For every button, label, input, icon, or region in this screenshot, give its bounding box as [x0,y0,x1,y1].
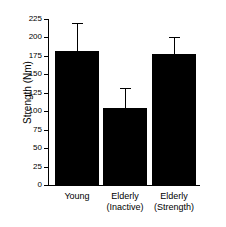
x-axis-line [48,185,200,186]
y-tick-label: 175 [29,52,42,60]
y-tick-label: 125 [29,89,42,97]
y-tick-mark [44,185,48,186]
y-tick-mark [44,37,48,38]
y-axis-line [48,19,49,185]
y-tick-mark [44,148,48,149]
y-tick-mark [44,19,48,20]
y-tick-label: 150 [29,70,42,78]
y-tick-mark [44,93,48,94]
y-tick-mark [44,74,48,75]
bar-2 [103,108,147,185]
x-tick-label-3: Elderly (Strength) [144,191,204,213]
y-tick-label: 0 [38,181,42,189]
bar-chart-figure: Strength (Nm) 0255075100125150175200225 … [0,0,226,227]
error-bar-cap-1 [72,23,83,24]
error-bar-cap-2 [120,88,131,89]
y-tick-label: 225 [29,15,42,23]
bar-1 [55,51,99,185]
y-tick-label: 200 [29,33,42,41]
y-tick-label: 50 [33,144,42,152]
y-tick-mark [44,111,48,112]
error-bar-stem-2 [125,88,126,107]
bar-3 [152,54,196,185]
y-tick-mark [44,167,48,168]
y-tick-label: 75 [33,126,42,134]
plot-area: 0255075100125150175200225 YoungElderly (… [48,19,200,185]
y-tick-mark [44,130,48,131]
y-tick-label: 25 [33,163,42,171]
y-tick-label: 100 [29,107,42,115]
error-bar-stem-1 [77,23,78,52]
error-bar-stem-3 [174,37,175,54]
y-tick-mark [44,56,48,57]
error-bar-cap-3 [169,37,180,38]
